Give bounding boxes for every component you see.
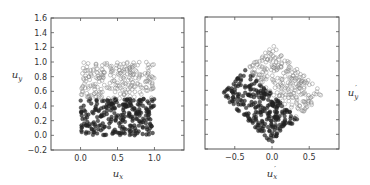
- x-tick-label: 0.5: [303, 153, 316, 162]
- x-tick-label: 0.5: [111, 154, 124, 163]
- y-tick-label: 1.4: [34, 29, 47, 38]
- right-y-axis-label: uy′: [348, 84, 359, 101]
- y-tick-label: 1.0: [34, 58, 47, 67]
- y-tick-label: 0.8: [34, 73, 47, 82]
- right-data-points: [222, 44, 323, 143]
- left-y-axis-label: uy: [12, 69, 23, 83]
- left-x-axis-label: ux: [113, 168, 123, 181]
- y-tick-label: 0.4: [34, 102, 47, 111]
- x-tick-label: 0.0: [74, 154, 87, 163]
- y-tick-label: 0.0: [34, 131, 47, 140]
- y-tick-label: 1.2: [34, 43, 47, 52]
- x-tick-label: 1.0: [148, 154, 161, 163]
- left-scatter-plot: 1.61.41.21.00.80.60.40.20.0−0.2 0.00.51.…: [12, 14, 184, 181]
- right-x-axis-label: ux′: [267, 165, 277, 181]
- chart-figure: 1.61.41.21.00.80.60.40.20.0−0.2 0.00.51.…: [0, 0, 370, 185]
- left-data-points: [79, 60, 156, 137]
- y-tick-label: 0.6: [34, 87, 47, 96]
- x-tick-label: −0.5: [225, 153, 244, 162]
- y-tick-label: −0.2: [28, 146, 47, 155]
- y-tick-label: 0.2: [34, 117, 47, 126]
- right-scatter-plot: −0.50.00.5 ux′ uy′: [205, 17, 359, 181]
- x-tick-label: 0.0: [266, 153, 279, 162]
- y-tick-label: 1.6: [34, 14, 47, 23]
